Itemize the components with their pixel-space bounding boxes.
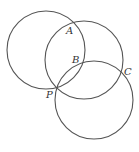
label-p: P	[46, 89, 53, 100]
circle-3	[55, 61, 133, 139]
label-b: B	[72, 54, 79, 65]
label-c: C	[124, 66, 132, 77]
label-a: A	[66, 25, 73, 36]
circles-canvas	[0, 0, 139, 152]
three-circles-diagram: A B C P	[0, 0, 139, 152]
